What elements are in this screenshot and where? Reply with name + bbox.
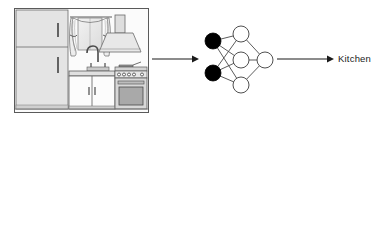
bathroom-row: Bathroom	[0, 128, 389, 240]
kitchen-scene-photo	[14, 8, 149, 113]
input-arrow	[152, 54, 200, 64]
kitchen-row: Kitchen	[0, 0, 389, 120]
base-cabinets-icon	[69, 76, 115, 109]
output-layer-nodes	[257, 52, 273, 68]
countertop	[69, 71, 115, 76]
neural-network-diagram	[203, 25, 275, 95]
output-arrow	[277, 54, 335, 64]
hidden-layer-nodes	[233, 26, 249, 93]
stove-oven-icon	[115, 62, 147, 109]
input-layer-nodes	[205, 33, 221, 81]
refrigerator-icon	[16, 10, 68, 109]
output-label-kitchen: Kitchen	[338, 54, 371, 64]
scene-classification-figure: Kitchen	[0, 0, 389, 240]
